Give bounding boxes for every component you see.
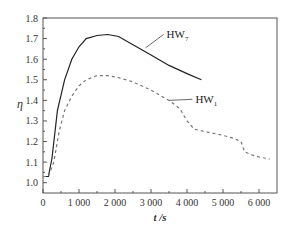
series-annotations: HW7HW1: [146, 28, 218, 108]
y-tick-label: 1.4: [26, 95, 39, 106]
x-tick-label: 0: [41, 197, 46, 208]
y-tick-label: 1.5: [26, 74, 39, 85]
x-tick-label: 5 000: [212, 197, 235, 208]
plot-frame: [43, 18, 277, 193]
y-tick-label: 1.8: [26, 13, 39, 24]
annotation-hw7: HW7: [167, 28, 189, 43]
y-tick-label: 1.3: [26, 115, 39, 126]
y-tick-label: 1.2: [26, 136, 39, 147]
y-tick-label: 1.1: [26, 157, 39, 168]
y-axis-label: η: [17, 97, 23, 111]
x-tick-label: 4 000: [176, 197, 199, 208]
line-chart: 01 0002 0003 0004 0005 0006 0001.01.11.2…: [0, 0, 290, 231]
series-hw1: [43, 76, 270, 177]
axis-ticks: 01 0002 0003 0004 0005 0006 0001.01.11.2…: [26, 13, 271, 209]
y-tick-label: 1.0: [26, 177, 39, 188]
x-tick-label: 6 000: [248, 197, 271, 208]
annotation-hw1: HW1: [195, 93, 217, 108]
x-axis-label: t /s: [153, 211, 166, 223]
x-tick-label: 3 000: [140, 197, 163, 208]
y-tick-label: 1.6: [26, 54, 39, 65]
series-lines: [43, 35, 270, 177]
x-tick-label: 1 000: [68, 197, 91, 208]
x-tick-label: 2 000: [104, 197, 127, 208]
y-tick-label: 1.7: [26, 33, 39, 44]
